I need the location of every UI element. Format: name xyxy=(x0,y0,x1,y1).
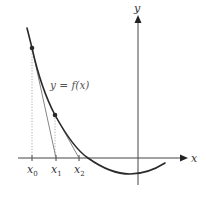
y-axis-label: y xyxy=(133,2,141,15)
x-axis-arrow-icon xyxy=(180,155,188,162)
y-axis-arrow-icon xyxy=(135,15,142,23)
iterate-label-x0: x0 xyxy=(27,163,38,178)
iterate-label-x2: x2 xyxy=(74,163,85,178)
function-curve xyxy=(27,28,165,174)
curve-label: y = f(x) xyxy=(49,79,89,91)
point-f-x0 xyxy=(30,46,35,51)
iterate-label-x1: x1 xyxy=(51,163,62,178)
x-axis-label: x xyxy=(191,152,198,165)
x-axis xyxy=(18,155,188,162)
point-f-x1 xyxy=(53,113,58,118)
newtons-method-diagram: x y y = f(x) x0 x1 x2 xyxy=(0,0,206,201)
y-axis xyxy=(135,15,142,185)
